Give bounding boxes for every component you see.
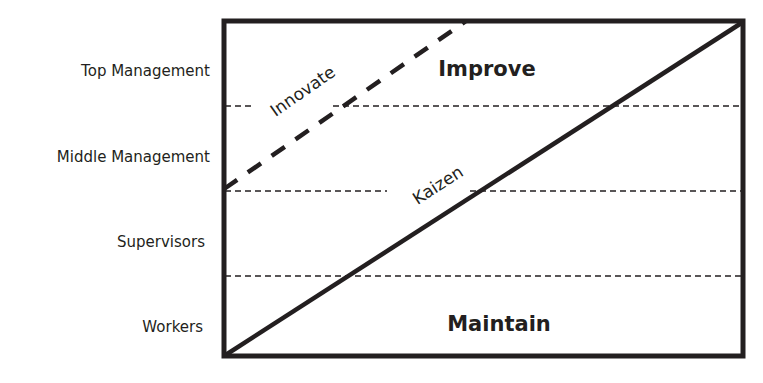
line-label-innovate: Innovate xyxy=(266,62,339,121)
region-label-improve: Improve xyxy=(438,57,535,81)
region-label-maintain: Maintain xyxy=(447,312,551,336)
innovate-line xyxy=(224,21,466,189)
line-label-kaizen: Kaizen xyxy=(409,161,467,208)
kaizen-diagram: Improve Maintain Innovate Kaizen xyxy=(0,0,763,383)
